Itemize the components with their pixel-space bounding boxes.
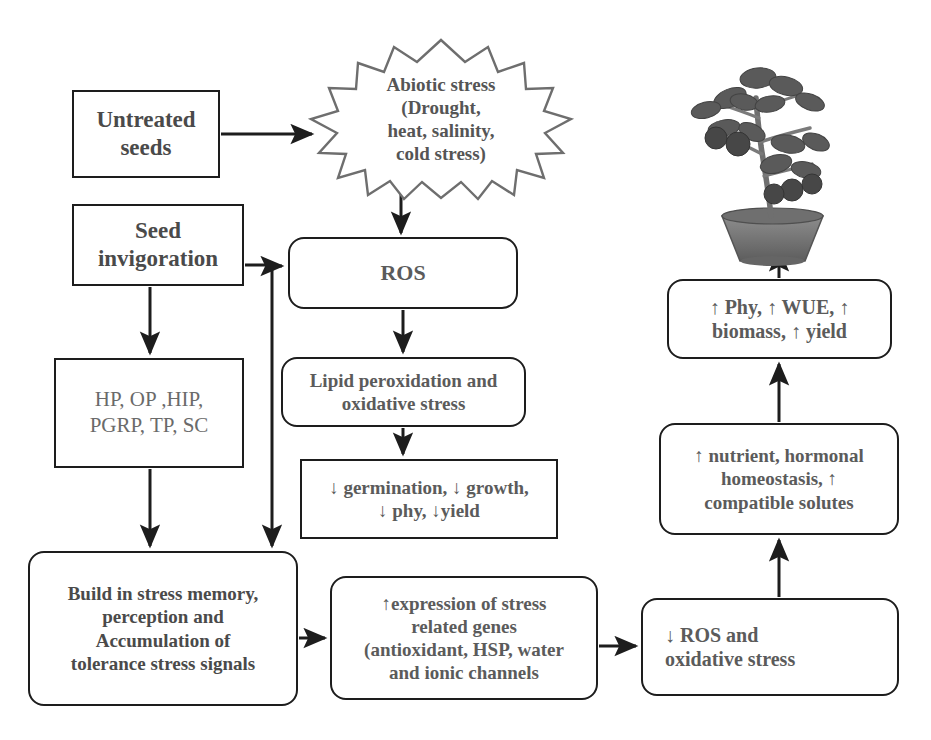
reduced-ros-label: ↓ ROS and oxidative stress: [643, 623, 801, 672]
homeostasis-label: ↑ nutrient, hormonal homeostasis, ↑ comp…: [688, 444, 869, 514]
seed-invigoration-label: Seed invigoration: [92, 217, 224, 273]
potted-plant-illustration: [660, 58, 885, 273]
node-reduced-ros[interactable]: ↓ ROS and oxidative stress: [641, 598, 899, 696]
node-ros[interactable]: ROS: [288, 237, 518, 309]
node-reduced-traits[interactable]: ↓ germination, ↓ growth, ↓ phy, ↓yield: [300, 459, 558, 539]
reduced-traits-label: ↓ germination, ↓ growth, ↓ phy, ↓yield: [323, 476, 535, 522]
abiotic-stress-starburst: Abiotic stress (Drought, heat, salinity,…: [298, 36, 584, 202]
node-improved-traits[interactable]: ↑ Phy, ↑ WUE, ↑ biomass, ↑ yield: [667, 279, 892, 359]
abiotic-stress-label: Abiotic stress (Drought, heat, salinity,…: [298, 36, 584, 202]
edge-invig-to-ros: [245, 265, 282, 266]
node-stress-memory[interactable]: Build in stress memory, perception and A…: [28, 551, 298, 706]
node-untreated-seeds[interactable]: Untreated seeds: [72, 90, 220, 178]
treatments-label: HP, OP ,HIP, PGRP, TP, SC: [84, 387, 215, 438]
ros-label: ROS: [374, 260, 431, 287]
improved-traits-label: ↑ Phy, ↑ WUE, ↑ biomass, ↑ yield: [704, 295, 856, 344]
stress-memory-label: Build in stress memory, perception and A…: [62, 582, 265, 675]
node-treatments[interactable]: HP, OP ,HIP, PGRP, TP, SC: [54, 358, 244, 468]
node-gene-expression[interactable]: ↑expression of stress related genes (ant…: [330, 576, 598, 700]
untreated-seeds-label: Untreated seeds: [90, 106, 201, 162]
gene-expression-label: ↑expression of stress related genes (ant…: [358, 592, 570, 685]
node-homeostasis[interactable]: ↑ nutrient, hormonal homeostasis, ↑ comp…: [659, 423, 899, 535]
node-lipid-peroxidation[interactable]: Lipid peroxidation and oxidative stress: [281, 357, 526, 427]
diagram-canvas: Abiotic stress (Drought, heat, salinity,…: [0, 0, 931, 740]
lipid-peroxidation-label: Lipid peroxidation and oxidative stress: [304, 369, 504, 415]
node-seed-invigoration[interactable]: Seed invigoration: [72, 204, 244, 286]
